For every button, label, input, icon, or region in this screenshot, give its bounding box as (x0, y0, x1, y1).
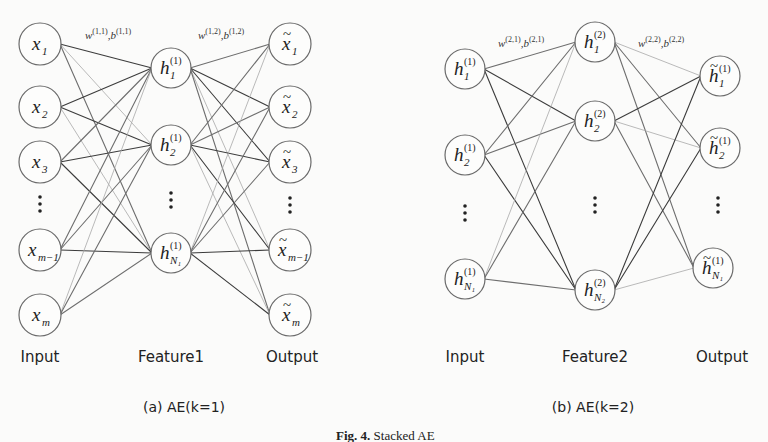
layer-label: Output (266, 348, 318, 366)
neuron-subscript: 3 (291, 163, 298, 175)
ellipsis-dots-icon (288, 196, 292, 214)
neuron-circle (445, 135, 485, 175)
neuron-subscript: N₂ (593, 291, 605, 303)
feature2-neuron: h1(2) (575, 22, 615, 62)
neuron-label: h (454, 268, 464, 289)
connection-edge (614, 121, 694, 268)
output-neuron: h~2(1) (700, 128, 740, 168)
neuron-circle (151, 48, 191, 88)
neuron-circle (575, 22, 615, 62)
connection-edge (484, 279, 576, 290)
neuron-circle (575, 270, 615, 310)
connection-edge (60, 107, 152, 145)
layer-label: Input (446, 348, 485, 366)
neuron-superscript: (2) (594, 277, 606, 289)
output-neuron: x~m−1 (269, 229, 311, 271)
neuron-subscript: 1 (719, 77, 725, 89)
connection-edge (60, 253, 152, 315)
neuron-subscript: 1 (464, 70, 470, 82)
neuron-circle (19, 229, 61, 271)
connection-edge (614, 42, 701, 148)
connection-edge (190, 107, 270, 253)
neuron-subscript: m (42, 316, 50, 328)
connection-edge (190, 250, 270, 253)
feature2-neuron: h2(2) (575, 101, 615, 141)
connection-edge (190, 68, 270, 315)
connection-edge (484, 155, 576, 290)
connection-edge (190, 44, 270, 68)
weight-bias-label: w(1,2),b(1,2) (198, 27, 245, 41)
panel-b-layer-labels: InputFeature2Output (446, 348, 749, 366)
neuron-superscript: (2) (594, 108, 606, 120)
panel-b-nodes: h1(1)h2(1)hN₁(1)h1(2)h2(2)hN₂(2)h~1(1)h~… (445, 22, 740, 310)
neuron-label: x (27, 239, 37, 260)
output-neuron: x~1 (269, 23, 311, 65)
panel-b-edges (484, 42, 701, 290)
neuron-subscript: 2 (42, 108, 48, 120)
connection-edge (60, 68, 152, 315)
connection-edge (614, 42, 694, 268)
weight-bias-label: w(2,1),b(2,1) (498, 35, 545, 49)
neuron-superscript: (2) (594, 29, 606, 41)
tilde-mark: ~ (710, 58, 718, 74)
connection-edge (614, 148, 701, 290)
ellipsis-dots-icon (463, 204, 467, 222)
neuron-subscript: 1 (170, 69, 176, 81)
ellipsis-dots-icon (716, 196, 720, 214)
tilde-mark: ~ (283, 89, 291, 105)
neuron-superscript: (1) (170, 132, 182, 144)
output-neuron: h~N₁(1) (693, 248, 733, 288)
ellipsis-dots-icon (593, 196, 597, 214)
neuron-superscript: (1) (170, 240, 182, 252)
connection-edge (484, 42, 576, 279)
panel-a-nodes: x1x2x3xm−1xmh1(1)h2(1)hN₁(1)x~1x~2x~3x~m… (19, 23, 311, 336)
stacked-autoencoder-figure: x1x2x3xm−1xmh1(1)h2(1)hN₁(1)x~1x~2x~3x~m… (0, 0, 768, 442)
connection-edge (614, 76, 701, 121)
neuron-label: x (31, 151, 41, 172)
panel-b-ae-k2: h1(1)h2(1)hN₁(1)h1(2)h2(2)hN₂(2)h~1(1)h~… (445, 22, 748, 415)
neuron-circle (700, 128, 740, 168)
neuron-subscript: 2 (594, 122, 600, 134)
neuron-subscript: 2 (464, 156, 470, 168)
input-neuron: x1 (19, 23, 61, 65)
neuron-subscript: 2 (292, 108, 298, 120)
figure-caption-text: Stacked AE (370, 428, 434, 442)
connection-edge (190, 68, 270, 107)
connection-edge (614, 42, 701, 76)
neuron-circle (269, 229, 311, 271)
ellipsis-dots-icon (38, 195, 42, 213)
connection-edge (60, 145, 152, 315)
layer-label: Output (696, 348, 748, 366)
neuron-superscript: (1) (719, 63, 731, 75)
tilde-mark: ~ (283, 26, 291, 42)
output-neuron: x~3 (269, 141, 311, 183)
layer-label: Input (21, 348, 60, 366)
layer-label: Feature2 (562, 348, 628, 366)
panel-a-weight-labels: w(1,1),b(1,1)w(1,2),b(1,2) (85, 27, 245, 41)
input-neuron: h2(1) (445, 135, 485, 175)
panel-a-subcaption: (a) AE(k=1) (143, 399, 225, 415)
neuron-label: x (31, 304, 41, 325)
tilde-mark: ~ (283, 144, 291, 160)
neuron-circle (693, 248, 733, 288)
connection-edge (484, 69, 576, 290)
input-neuron: h1(1) (445, 49, 485, 89)
connection-edge (190, 145, 270, 250)
neuron-superscript: (1) (719, 135, 731, 147)
neuron-subscript: 3 (41, 163, 48, 175)
neuron-circle (151, 125, 191, 165)
panel-a-layer-labels: InputFeature1Output (21, 348, 319, 366)
output-neuron: x~2 (269, 86, 311, 128)
connection-edge (190, 107, 270, 145)
connection-edge (60, 68, 152, 107)
panel-b-subcaption: (b) AE(k=2) (552, 399, 634, 415)
neuron-circle (445, 259, 485, 299)
feature1-neuron: hN₁(1) (151, 233, 191, 273)
figure-caption-prefix: Fig. 4. (336, 428, 370, 442)
tilde-mark: ~ (283, 297, 291, 313)
neuron-superscript: (1) (712, 255, 724, 267)
ellipsis-dots-icon (169, 191, 173, 209)
neuron-subscript: N₁ (711, 269, 723, 281)
neuron-label: h (160, 242, 170, 263)
output-neuron: x~m (269, 294, 311, 336)
